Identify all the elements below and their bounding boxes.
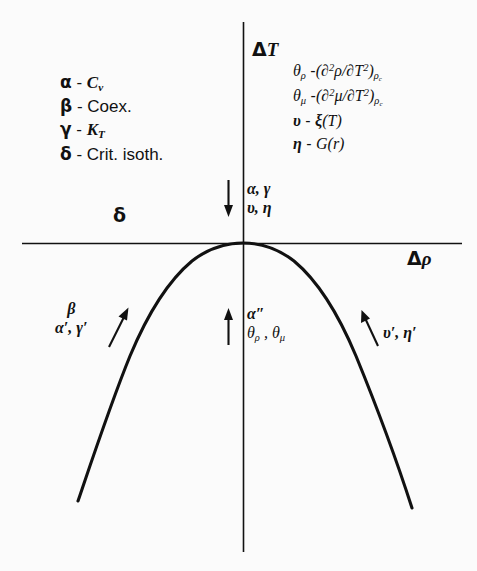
annotation-left-arm-line1: β <box>55 300 88 319</box>
annotation-upper-center: α, γ υ, η <box>247 180 272 218</box>
annotation-left-arm: β α′, γ′ <box>55 300 88 338</box>
annotation-lower-center: α″ θρ , θμ <box>247 305 285 344</box>
axis-label-delta-rho: Δρ <box>407 247 432 270</box>
diagonal-up-right-arrow-icon <box>109 308 129 348</box>
diagonal-up-left-arrow-icon <box>361 310 378 346</box>
label-delta-critical-isotherm: δ <box>113 204 126 226</box>
legend-right: θρ -(∂2ρ/∂T2)ρc θμ -(∂2μ/∂T2)ρc υ - ξ(T)… <box>293 62 383 158</box>
annotation-right-arm: υ′, η′ <box>383 324 417 343</box>
annotation-left-arm-line2: α′, γ′ <box>55 319 88 338</box>
legend-left-item-gamma: γ - KT <box>60 119 163 141</box>
legend-left: α - Cv β - Coex. γ - KT δ - Crit. isoth. <box>60 72 163 167</box>
down-arrow-icon <box>224 180 233 217</box>
annotation-lower-center-line1: α″ <box>247 305 285 324</box>
annotation-lower-center-line2: θρ , θμ <box>247 324 285 344</box>
coexistence-curve <box>78 243 412 508</box>
legend-right-item-theta-rho: θρ -(∂2ρ/∂T2)ρc <box>293 62 383 83</box>
legend-right-item-eta: η - G(r) <box>293 135 383 154</box>
legend-left-item-beta: β - Coex. <box>60 96 163 117</box>
legend-left-item-delta: δ - Crit. isoth. <box>60 144 163 165</box>
up-arrow-icon <box>224 308 233 345</box>
legend-left-item-alpha: α - Cv <box>60 72 163 94</box>
annotation-upper-center-line2: υ, η <box>247 199 272 218</box>
axis-label-delta-t: ΔT <box>252 38 278 61</box>
coexistence-curve-figure: ΔT Δρ δ α - Cv β - Coex. γ - KT δ - Crit… <box>0 0 477 571</box>
legend-right-item-theta-mu: θμ -(∂2μ/∂T2)ρc <box>293 87 383 108</box>
annotation-upper-center-line1: α, γ <box>247 180 272 199</box>
legend-right-item-upsilon: υ - ξ(T) <box>293 112 383 131</box>
